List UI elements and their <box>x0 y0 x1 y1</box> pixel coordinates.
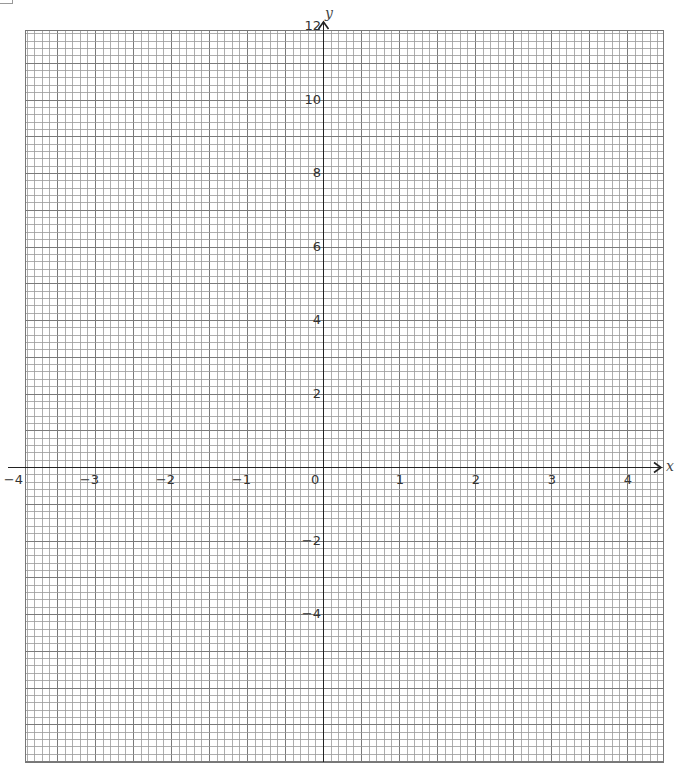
y-tick-label: 4 <box>313 313 321 326</box>
grid-border <box>26 31 664 763</box>
minor-grid-lines <box>25 30 664 763</box>
y-tick-label: 6 <box>313 240 321 253</box>
x-tick-label: −2 <box>156 473 175 486</box>
y-tick-label: 8 <box>313 166 321 179</box>
y-tick-label: 10 <box>304 93 321 106</box>
x-tick-label: 4 <box>624 473 632 486</box>
graph-paper: −4−3−2−10123412108642−2−4 x y <box>0 0 689 781</box>
x-tick-label: 3 <box>548 473 556 486</box>
y-tick-label: −4 <box>302 607 321 620</box>
x-axis-label: x <box>666 459 674 473</box>
y-tick-label: 2 <box>313 387 321 400</box>
y-tick-label: 12 <box>304 19 321 32</box>
x-tick-label: −3 <box>80 473 99 486</box>
y-axis-label: y <box>325 6 333 20</box>
x-tick-label: −1 <box>232 473 251 486</box>
x-tick-label: −4 <box>4 473 23 486</box>
y-tick-label: −2 <box>302 534 321 547</box>
grid-plot <box>0 0 689 781</box>
x-tick-label: 0 <box>311 473 319 486</box>
x-tick-label: 1 <box>396 473 404 486</box>
x-tick-label: 2 <box>472 473 480 486</box>
